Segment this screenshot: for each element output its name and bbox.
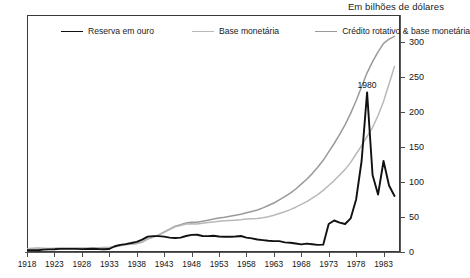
y-tick-label: 0 bbox=[409, 247, 414, 257]
x-tick bbox=[384, 252, 385, 257]
x-tick-label: 1933 bbox=[100, 259, 119, 269]
x-tick bbox=[329, 252, 330, 257]
y-tick bbox=[400, 42, 405, 43]
y-tick bbox=[400, 112, 405, 113]
x-tick bbox=[164, 252, 165, 257]
y-tick bbox=[400, 147, 405, 148]
x-tick-label: 1968 bbox=[292, 259, 311, 269]
series-line-0 bbox=[27, 92, 395, 250]
x-tick-label: 1923 bbox=[45, 259, 64, 269]
x-tick bbox=[356, 252, 357, 257]
y-tick-label: 150 bbox=[409, 142, 424, 152]
y-tick-label: 50 bbox=[409, 212, 419, 222]
x-tick bbox=[109, 252, 110, 257]
y-tick-label: 250 bbox=[409, 72, 424, 82]
x-tick bbox=[274, 252, 275, 257]
units-caption: Em bilhões de dólares bbox=[348, 1, 444, 12]
y-tick-label: 300 bbox=[409, 37, 424, 47]
x-tick-label: 1938 bbox=[127, 259, 146, 269]
x-tick bbox=[301, 252, 302, 257]
y-tick-label: 100 bbox=[409, 177, 424, 187]
x-tick-label: 1948 bbox=[182, 259, 201, 269]
x-tick bbox=[246, 252, 247, 257]
x-tick-label: 1953 bbox=[210, 259, 229, 269]
y-tick bbox=[400, 217, 405, 218]
x-tick-label: 1983 bbox=[374, 259, 393, 269]
series-line-2 bbox=[27, 36, 395, 248]
x-tick-label: 1963 bbox=[265, 259, 284, 269]
y-tick bbox=[400, 182, 405, 183]
x-tick bbox=[219, 252, 220, 257]
x-tick bbox=[54, 252, 55, 257]
peak-annotation-1980: 1980 bbox=[358, 80, 377, 90]
plot-lines bbox=[27, 15, 400, 252]
x-tick bbox=[82, 252, 83, 257]
x-tick-label: 1958 bbox=[237, 259, 256, 269]
x-tick bbox=[192, 252, 193, 257]
x-tick-label: 1973 bbox=[319, 259, 338, 269]
y-tick bbox=[400, 77, 405, 78]
x-tick-label: 1978 bbox=[347, 259, 366, 269]
y-tick-label: 200 bbox=[409, 107, 424, 117]
x-tick-label: 1943 bbox=[155, 259, 174, 269]
x-tick-label: 1928 bbox=[73, 259, 92, 269]
x-tick bbox=[137, 252, 138, 257]
x-tick-label: 1918 bbox=[18, 259, 37, 269]
x-tick bbox=[27, 252, 28, 257]
